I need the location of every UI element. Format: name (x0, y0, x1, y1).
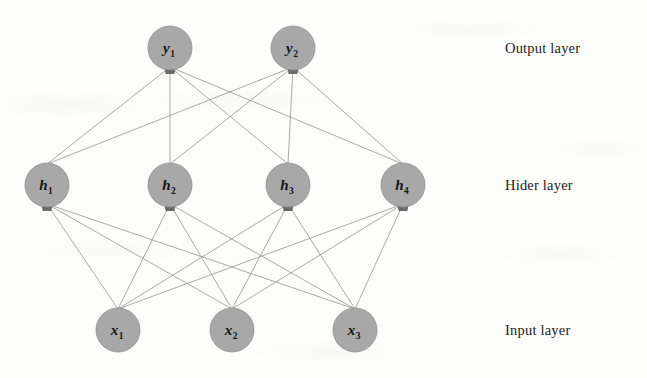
edge-h1-to-y1 (47, 67, 170, 164)
node-y2[interactable]: y2 (271, 26, 315, 70)
node-h4[interactable]: h4 (381, 163, 425, 207)
nodes-group: y1y2h1h2h3h4x1x2x3 (25, 26, 425, 352)
node-subscript-h2: 2 (171, 186, 176, 196)
node-subscript-y1: 1 (170, 49, 175, 59)
edge-h4-to-y1 (170, 67, 403, 164)
edge-h4-to-y2 (293, 67, 403, 164)
edge-x1-to-h4 (118, 204, 403, 309)
node-x2[interactable]: x2 (210, 308, 254, 352)
edges-group (40, 61, 410, 309)
node-h1[interactable]: h1 (25, 163, 69, 207)
layer-label-output: Output layer (505, 40, 580, 57)
edge-x2-to-h3 (232, 204, 288, 309)
node-subscript-x3: 3 (356, 331, 361, 341)
edge-x3-to-h4 (355, 204, 403, 309)
node-x1[interactable]: x1 (96, 308, 140, 352)
edge-x2-to-h4 (232, 204, 403, 309)
layer-label-input: Input layer (505, 322, 570, 339)
edge-x3-to-h1 (47, 204, 355, 309)
node-y1[interactable]: y1 (148, 26, 192, 70)
layer-label-hidden: Hider layer (505, 177, 573, 194)
node-subscript-x2: 2 (233, 331, 238, 341)
node-subscript-x1: 1 (119, 331, 124, 341)
diagram-canvas: y1y2h1h2h3h4x1x2x3 Output layer Hider la… (0, 0, 647, 378)
edge-h3-to-y1 (170, 67, 288, 164)
edge-x3-to-h3 (288, 204, 355, 309)
node-subscript-h4: 4 (404, 186, 409, 196)
node-h3[interactable]: h3 (266, 163, 310, 207)
node-h2[interactable]: h2 (148, 163, 192, 207)
node-subscript-h1: 1 (48, 186, 53, 196)
edge-h3-to-y2 (288, 67, 293, 164)
edge-x1-to-h1 (47, 204, 118, 309)
node-subscript-y2: 2 (293, 49, 298, 59)
node-x3[interactable]: x3 (333, 308, 377, 352)
node-subscript-h3: 3 (289, 186, 294, 196)
edge-x2-to-h1 (47, 204, 232, 309)
edge-h2-to-y2 (170, 67, 293, 164)
